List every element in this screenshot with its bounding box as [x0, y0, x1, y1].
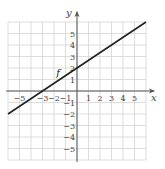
x-tick-label: 3 [109, 94, 114, 103]
x-tick-label: 4 [120, 94, 125, 103]
y-tick-label: −2 [63, 110, 75, 119]
y-tick-label: −4 [63, 133, 75, 142]
y-tick-label: 1 [70, 76, 75, 85]
y-tick-label: 3 [70, 53, 75, 62]
y-axis-label: y [65, 7, 72, 18]
x-tick-label: −5 [14, 94, 26, 103]
y-tick-label: −3 [63, 122, 75, 131]
x-tick-label: 1 [86, 94, 91, 103]
y-tick-label: 5 [70, 30, 75, 39]
x-tick-label: 5 [132, 94, 137, 103]
function-label: f [55, 67, 62, 78]
y-tick-label: 4 [70, 41, 75, 50]
x-tick-label: −3 [37, 94, 49, 103]
y-tick-label: −1 [63, 99, 75, 108]
coordinate-plane: −5−3−2−11234554321−1−2−3−4−5 x y f [0, 0, 165, 169]
y-tick-label: −5 [63, 145, 75, 154]
x-axis-label: x [151, 92, 157, 103]
x-tick-label: −2 [48, 94, 60, 103]
x-tick-label: 2 [97, 94, 102, 103]
